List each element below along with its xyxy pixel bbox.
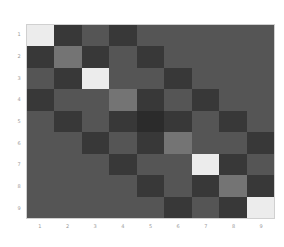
heatmap-cell — [82, 175, 109, 196]
heatmap-cell — [247, 25, 274, 46]
y-tick-label: 2 — [14, 46, 24, 68]
heatmap-cell — [109, 175, 136, 196]
heatmap-cell — [109, 68, 136, 89]
heatmap-cell — [164, 154, 191, 175]
heatmap-cell — [82, 25, 109, 46]
heatmap-cell — [137, 175, 164, 196]
heatmap-cell — [192, 46, 219, 67]
heatmap-cell — [27, 197, 54, 218]
heatmap-cell — [137, 132, 164, 153]
heatmap-cell — [247, 154, 274, 175]
heatmap-cell — [82, 89, 109, 110]
heatmap-cell — [219, 68, 246, 89]
heatmap-cell — [192, 25, 219, 46]
heatmap-cell — [54, 132, 81, 153]
heatmap-cell — [109, 197, 136, 218]
heatmap-cell — [54, 46, 81, 67]
heatmap-cell — [247, 197, 274, 218]
heatmap-cell — [27, 25, 54, 46]
heatmap-cell — [164, 111, 191, 132]
heatmap-cell — [247, 175, 274, 196]
heatmap-cell — [82, 46, 109, 67]
heatmap-cell — [219, 25, 246, 46]
heatmap-cell — [137, 111, 164, 132]
heatmap-cell — [109, 89, 136, 110]
heatmap-cell — [82, 111, 109, 132]
y-axis-ticks: 123456789 — [14, 24, 24, 219]
y-tick-label: 4 — [14, 89, 24, 111]
heatmap-cell — [54, 89, 81, 110]
heatmap-cell — [192, 111, 219, 132]
heatmap-cell — [137, 46, 164, 67]
heatmap-cell — [27, 46, 54, 67]
heatmap-cell — [164, 68, 191, 89]
heatmap-cell — [164, 89, 191, 110]
y-tick-label: 7 — [14, 154, 24, 176]
heatmap-cell — [137, 68, 164, 89]
x-tick-label: 9 — [247, 221, 275, 231]
heatmap-cell — [192, 89, 219, 110]
heatmap-cell — [219, 154, 246, 175]
heatmap-cell — [27, 89, 54, 110]
heatmap-cell — [54, 111, 81, 132]
heatmap-figure: 123456789 123456789 — [0, 0, 284, 247]
y-tick-label: 1 — [14, 24, 24, 46]
x-tick-label: 8 — [220, 221, 248, 231]
y-tick-label: 3 — [14, 67, 24, 89]
x-tick-label: 7 — [192, 221, 220, 231]
y-tick-label: 9 — [14, 197, 24, 219]
heatmap-cell — [109, 154, 136, 175]
heatmap-cell — [54, 154, 81, 175]
x-tick-label: 3 — [81, 221, 109, 231]
heatmap-cell — [247, 111, 274, 132]
heatmap-cell — [164, 175, 191, 196]
x-tick-label: 5 — [137, 221, 165, 231]
heatmap-cell — [27, 68, 54, 89]
heatmap-cell — [109, 111, 136, 132]
heatmap-cell — [192, 68, 219, 89]
heatmap-cell — [27, 175, 54, 196]
heatmap-cell — [192, 154, 219, 175]
heatmap-cell — [219, 175, 246, 196]
heatmap-cell — [219, 132, 246, 153]
heatmap-cell — [109, 46, 136, 67]
heatmap-cell — [82, 68, 109, 89]
x-tick-label: 1 — [26, 221, 54, 231]
heatmap-plot-area — [26, 24, 275, 219]
heatmap-cell — [192, 197, 219, 218]
x-tick-label: 4 — [109, 221, 137, 231]
heatmap-cell — [219, 197, 246, 218]
heatmap-cell — [137, 197, 164, 218]
heatmap-cell — [82, 132, 109, 153]
heatmap-cell — [192, 132, 219, 153]
heatmap-cell — [164, 46, 191, 67]
heatmap-cell — [219, 46, 246, 67]
y-tick-label: 8 — [14, 176, 24, 198]
heatmap-cell — [82, 197, 109, 218]
heatmap-cell — [82, 154, 109, 175]
heatmap-cell — [54, 197, 81, 218]
heatmap-cell — [164, 25, 191, 46]
heatmap-cell — [27, 111, 54, 132]
heatmap-cell — [247, 89, 274, 110]
heatmap-cell — [27, 154, 54, 175]
heatmap-cell — [247, 46, 274, 67]
x-tick-label: 2 — [54, 221, 82, 231]
heatmap-cell — [247, 68, 274, 89]
heatmap-cell — [27, 132, 54, 153]
heatmap-cell — [137, 154, 164, 175]
heatmap-cell — [54, 25, 81, 46]
heatmap-cell — [192, 175, 219, 196]
heatmap-cell — [247, 132, 274, 153]
heatmap-cell — [164, 197, 191, 218]
x-axis-ticks: 123456789 — [26, 221, 275, 231]
heatmap-cell — [219, 89, 246, 110]
y-tick-label: 6 — [14, 132, 24, 154]
heatmap-cell — [137, 89, 164, 110]
heatmap-cell — [164, 132, 191, 153]
heatmap-cell — [54, 68, 81, 89]
x-tick-label: 6 — [164, 221, 192, 231]
y-tick-label: 5 — [14, 111, 24, 133]
heatmap-cell — [137, 25, 164, 46]
heatmap-cell — [219, 111, 246, 132]
